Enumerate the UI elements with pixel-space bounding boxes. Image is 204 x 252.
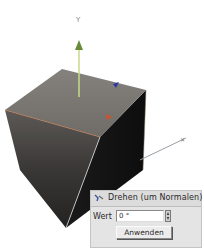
angle-stepper[interactable] (165, 210, 171, 222)
apply-button[interactable]: Anwenden (116, 226, 172, 239)
rotate-normal-icon (94, 193, 104, 203)
value-label: Wert (93, 212, 112, 221)
x-axis-label: ✕ (180, 136, 185, 143)
panel-title: Drehen (um Normalen) (108, 193, 202, 202)
panel-header: Drehen (um Normalen) (91, 191, 201, 207)
y-axis-label: Y (75, 16, 81, 24)
rotate-normal-panel: Drehen (um Normalen) Wert Anwenden (90, 190, 202, 248)
y-axis-arrow (75, 40, 83, 50)
angle-input[interactable] (116, 210, 164, 222)
